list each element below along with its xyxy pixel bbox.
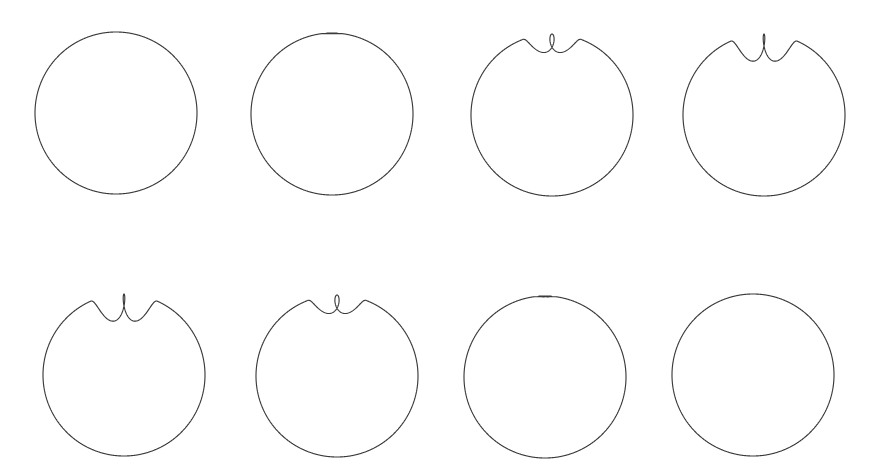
curve-panel: plain circle xyxy=(672,294,834,456)
epitrochoid-curve: dimpled circle xyxy=(464,296,626,458)
curve-panel: small crossing loop xyxy=(471,34,633,196)
curve-panel: plain circle xyxy=(35,32,197,194)
figure-canvas: plain circledimpled circlesmall crossing… xyxy=(0,0,874,476)
curve-panel: small crossing loop xyxy=(256,295,418,457)
curve-panel: dimpled circle xyxy=(251,33,413,195)
epitrochoid-curve: plain circle xyxy=(35,32,197,194)
curve-panel: dimpled circle xyxy=(464,296,626,458)
panel-layer: plain circledimpled circlesmall crossing… xyxy=(35,32,845,458)
epitrochoid-curve: large tangent loop xyxy=(43,294,205,456)
epitrochoid-sequence-svg: plain circledimpled circlesmall crossing… xyxy=(0,0,874,476)
epitrochoid-curve: small crossing loop xyxy=(471,34,633,196)
curve-panel: large tangent loop xyxy=(683,34,845,196)
epitrochoid-curve: large tangent loop xyxy=(683,34,845,196)
epitrochoid-curve: dimpled circle xyxy=(251,33,413,195)
epitrochoid-curve: small crossing loop xyxy=(256,295,418,457)
epitrochoid-curve: plain circle xyxy=(672,294,834,456)
curve-panel: large tangent loop xyxy=(43,294,205,456)
